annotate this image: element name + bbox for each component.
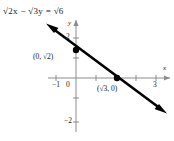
point-label-y-intercept: (0, √2) (33, 52, 53, 61)
y-axis (73, 20, 79, 132)
y-tick-label-2: 2 (66, 32, 70, 41)
point-marker-y-intercept (73, 47, 79, 53)
point-label-x-intercept: (√3, 0) (97, 84, 117, 93)
y-axis-label: y (68, 19, 71, 27)
coordinate-plane (0, 0, 174, 141)
plotted-line (46, 24, 167, 114)
y-tick-label-neg2: −2 (64, 116, 72, 125)
x-tick-label-neg1: −1 (52, 80, 60, 89)
x-axis-label: x (163, 64, 166, 72)
graph-figure: √2x − √3y = √6 (0, 0, 174, 141)
x-tick-label-0: 0 (66, 80, 70, 89)
point-marker-x-intercept (114, 75, 120, 81)
x-tick-label-3: 3 (153, 80, 157, 89)
